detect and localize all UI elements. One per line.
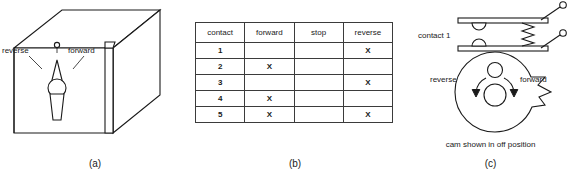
cell-forward: X xyxy=(245,91,294,107)
cell-stop xyxy=(294,75,343,91)
column-header-stop: stop xyxy=(294,23,343,43)
cam-shaft-bore xyxy=(484,84,506,106)
cell-contact: 2 xyxy=(196,59,245,75)
cell-reverse: X xyxy=(343,75,392,91)
cell-reverse xyxy=(343,59,392,75)
cell-reverse xyxy=(343,91,392,107)
column-header-forward: forward xyxy=(245,23,294,43)
panel-a-label-forward: forward xyxy=(68,46,95,55)
cell-contact: 5 xyxy=(196,107,245,123)
cell-stop xyxy=(294,43,343,59)
cell-forward: X xyxy=(245,107,294,123)
upper-terminal[interactable] xyxy=(560,2,567,9)
drum-switch-drawing: reverse forward xyxy=(0,0,190,150)
cam-assembly-drawing: reverse forward contact 1 xyxy=(400,0,581,140)
panel-a-caption: (a) xyxy=(0,158,190,169)
door-top-lip xyxy=(105,42,115,48)
column-header-contact: contact xyxy=(196,23,245,43)
table-row: 2 X xyxy=(196,59,393,75)
cell-reverse: X xyxy=(343,107,392,123)
upper-terminal-lead xyxy=(541,7,560,20)
panel-a-label-reverse: reverse xyxy=(2,46,29,55)
panel-c-caption: (c) xyxy=(400,158,581,169)
panel-c-cam-assembly: reverse forward contact 1 cam shown in o… xyxy=(400,0,581,184)
contact-spring xyxy=(522,23,534,46)
table-row: 3 X xyxy=(196,75,393,91)
cell-forward xyxy=(245,75,294,91)
cam-pin-hole xyxy=(488,63,503,78)
cell-reverse: X xyxy=(343,43,392,59)
cam-label-reverse: reverse xyxy=(430,75,457,84)
table-header-row: contact forward stop reverse xyxy=(196,23,393,43)
cell-contact: 1 xyxy=(196,43,245,59)
cell-stop xyxy=(294,91,343,107)
upper-contact-bar xyxy=(458,18,548,23)
panel-b-caption: (b) xyxy=(190,158,400,169)
cell-forward: X xyxy=(245,59,294,75)
lower-contact-bump xyxy=(472,39,486,46)
figure-root: reverse forward (a) contact forward stop… xyxy=(0,0,581,184)
contact-truth-table: contact forward stop reverse 1 X 2 xyxy=(195,22,393,123)
cam-position-note: cam shown in off position xyxy=(400,140,581,149)
cell-forward xyxy=(245,43,294,59)
lower-contact-bar xyxy=(458,46,548,51)
column-header-reverse: reverse xyxy=(343,23,392,43)
contact-label: contact 1 xyxy=(418,31,451,40)
table-row: 4 X xyxy=(196,91,393,107)
cell-stop xyxy=(294,59,343,75)
cam-label-forward: forward xyxy=(520,75,547,84)
door-edge-strip xyxy=(105,48,113,133)
table-row: 5 X X xyxy=(196,107,393,123)
table-row: 1 X xyxy=(196,43,393,59)
index-mark-dot xyxy=(54,42,59,47)
cell-contact: 4 xyxy=(196,91,245,107)
upper-contact-bump xyxy=(472,23,486,30)
lower-terminal[interactable] xyxy=(560,30,567,37)
cell-contact: 3 xyxy=(196,75,245,91)
table-wrapper: contact forward stop reverse 1 X 2 xyxy=(195,22,393,123)
panel-a-drum-switch: reverse forward (a) xyxy=(0,0,190,184)
lower-terminal-lead xyxy=(541,35,560,48)
panel-b-contact-table: contact forward stop reverse 1 X 2 xyxy=(190,0,400,184)
cell-stop xyxy=(294,107,343,123)
lever-handle[interactable] xyxy=(50,94,64,120)
